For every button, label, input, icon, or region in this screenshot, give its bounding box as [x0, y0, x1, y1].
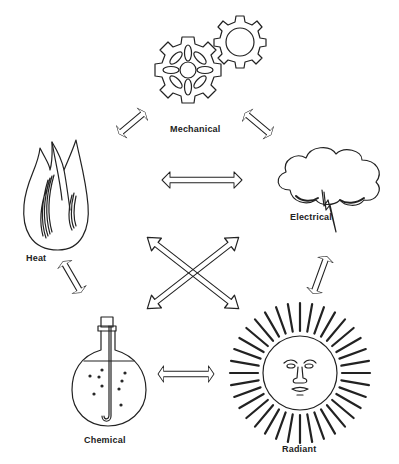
- label-heat: Heat: [26, 253, 46, 263]
- label-electrical: Electrical: [290, 212, 332, 222]
- arrow-heat-chemical: [56, 257, 88, 296]
- label-radiant: Radiant: [282, 444, 316, 454]
- arrow-heat-radiant-diagonal: [142, 231, 243, 315]
- flame-icon: [24, 140, 89, 250]
- arrow-mechanical-electrical: [240, 107, 276, 141]
- label-mechanical: Mechanical: [170, 124, 221, 134]
- arrow-mechanical-heat: [114, 106, 150, 140]
- flask-icon: [72, 317, 146, 426]
- arrow-chemical-radiant: [158, 366, 214, 382]
- arrow-electrical-chemical-diagonal: [142, 231, 243, 315]
- sun-face-icon: [230, 303, 370, 443]
- gears-icon: [155, 16, 266, 103]
- arrow-electrical-radiant: [306, 253, 335, 296]
- label-chemical: Chemical: [84, 435, 126, 445]
- energy-forms-diagram: Mechanical Electrical Radiant Chemical H…: [0, 0, 399, 464]
- arrow-heat-electrical: [162, 172, 242, 188]
